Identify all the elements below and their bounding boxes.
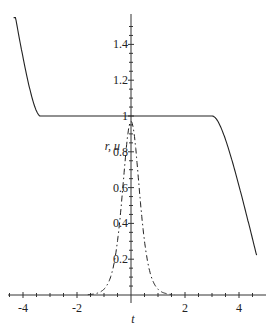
y-tick-label: 0.4 [113,216,128,230]
x-tick-label: 2 [182,301,188,315]
x-tick-label: 4 [236,301,242,315]
x-tick-label: -2 [72,301,82,315]
y-tick-label: 0.6 [113,181,128,195]
plot-area: -4-2240.20.40.60.811.21.4tr, u [0,0,273,329]
curves [14,18,257,295]
series-r-line [14,18,257,256]
y-tick-label: 1.2 [113,73,128,87]
y-tick-label: 1 [122,109,128,123]
x-axis-label: t [131,312,135,326]
y-axis-label: r, u [105,139,120,153]
axes [8,14,266,303]
y-tick-label: 1.4 [113,37,128,51]
y-tick-label: 0.2 [113,252,128,266]
x-tick-label: -4 [18,301,28,315]
